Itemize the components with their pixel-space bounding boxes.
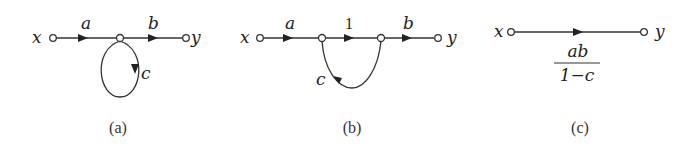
arrow-icon xyxy=(283,34,293,42)
signal-flow-graphs: x a b c y x a 1 b c y x xyxy=(0,0,687,159)
gain-a: a xyxy=(285,13,295,33)
gain-denominator: 1−c xyxy=(560,65,595,85)
gain-1: 1 xyxy=(345,15,353,32)
feedback-c xyxy=(322,41,381,88)
node-y xyxy=(183,35,190,42)
arrow-icon xyxy=(402,34,412,42)
arrow-icon xyxy=(148,34,158,42)
arrow-icon xyxy=(333,76,342,84)
node-x xyxy=(50,35,57,42)
caption-c: (c) xyxy=(571,119,589,137)
output-label-y: y xyxy=(446,27,457,47)
diagram-b: x a 1 b c y xyxy=(240,13,457,89)
gain-a: a xyxy=(81,13,91,33)
input-label-x: x xyxy=(32,27,42,47)
input-label-x: x xyxy=(494,21,504,41)
node-1 xyxy=(319,35,326,42)
gain-c: c xyxy=(141,63,151,83)
input-label-x: x xyxy=(240,27,250,47)
output-label-y: y xyxy=(654,21,665,41)
node-y xyxy=(435,35,442,42)
diagram-a: x a b c y xyxy=(32,13,201,97)
gain-b: b xyxy=(403,13,414,33)
node-y xyxy=(641,29,648,36)
arrow-icon xyxy=(131,64,139,74)
node-1 xyxy=(117,35,124,42)
arrow-icon xyxy=(344,34,354,42)
gain-b: b xyxy=(148,13,159,33)
node-2 xyxy=(378,35,385,42)
caption-b: (b) xyxy=(343,119,362,137)
arrow-icon xyxy=(78,34,88,42)
gain-numerator: ab xyxy=(567,41,588,61)
caption-a: (a) xyxy=(109,119,127,137)
node-x xyxy=(508,29,515,36)
gain-c: c xyxy=(316,69,326,89)
node-x xyxy=(257,35,264,42)
diagram-c: x y ab 1−c xyxy=(494,21,665,85)
arrow-icon xyxy=(573,28,583,36)
output-label-y: y xyxy=(190,27,201,47)
